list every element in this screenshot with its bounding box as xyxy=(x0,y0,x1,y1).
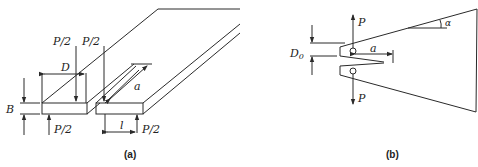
crack-length-label: a xyxy=(134,80,141,93)
opening-label: D0 xyxy=(289,47,304,61)
figure-b-labels: P P D0 a α (b) xyxy=(289,16,451,160)
width-label: D xyxy=(60,61,70,74)
load-label-top: P xyxy=(357,16,366,29)
span-label: l xyxy=(120,119,124,132)
wedge-angle-label: α xyxy=(445,18,451,28)
load-label-bottom: P xyxy=(357,92,366,105)
thickness-label: B xyxy=(5,103,14,116)
load-label-bottom-left: P/2 xyxy=(53,123,72,136)
load-label-bottom-right: P/2 xyxy=(141,123,160,136)
load-label-top-left: P/2 xyxy=(52,35,71,48)
caption-b: (b) xyxy=(386,149,399,160)
figure-a-labels: P/2 P/2 D B a P/2 l P/2 (a) xyxy=(5,35,160,160)
load-label-top-right: P/2 xyxy=(81,35,100,48)
figure-b-annotations xyxy=(310,15,447,104)
crack-length-label-b: a xyxy=(370,42,377,55)
figure-a-plate xyxy=(42,9,240,114)
figure-a-annotations xyxy=(20,46,147,135)
caption-a: (a) xyxy=(124,149,136,160)
fracture-specimen-diagram: P/2 P/2 D B a P/2 l P/2 (a) xyxy=(0,0,478,167)
